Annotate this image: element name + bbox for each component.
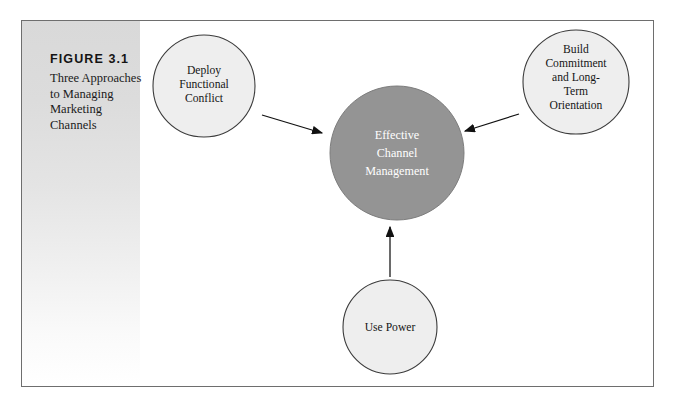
node-label-line-5: Orientation <box>550 99 603 112</box>
node-label-line-2: Channel <box>377 146 418 160</box>
arrow-conflict-to-center <box>262 115 322 133</box>
figure-root: FIGURE 3.1 Three Approaches to Managing … <box>0 0 676 413</box>
node-use-power[interactable]: Use Power <box>343 280 437 374</box>
node-label-line-2: Functional <box>179 78 229 91</box>
node-label-line-4: Term <box>564 85 588 98</box>
node-build-commitment[interactable]: Build Commitment and Long- Term Orientat… <box>523 30 629 134</box>
node-label-line-2: Commitment <box>545 57 607 70</box>
node-label-line-1: Use Power <box>365 321 416 334</box>
node-label-line-1: Deploy <box>187 64 221 77</box>
concept-diagram: Deploy Functional Conflict Build Commitm… <box>0 0 676 413</box>
node-label-line-1: Build <box>563 43 589 56</box>
node-label-line-3: Management <box>365 164 429 178</box>
node-deploy-functional-conflict[interactable]: Deploy Functional Conflict <box>153 35 255 137</box>
node-label-line-3: and Long- <box>552 71 600 84</box>
node-effective-channel-management[interactable]: Effective Channel Management <box>330 86 464 220</box>
node-label-line-3: Conflict <box>185 92 224 105</box>
node-label-line-1: Effective <box>375 128 419 142</box>
arrow-commitment-to-center <box>465 114 519 131</box>
